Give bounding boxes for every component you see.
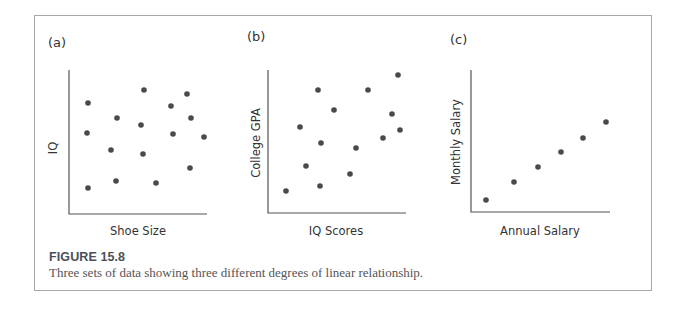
data-point <box>389 111 395 117</box>
data-point <box>188 115 194 121</box>
data-point <box>347 171 353 177</box>
data-point <box>114 115 120 121</box>
data-point <box>397 127 403 133</box>
panel-a: (a) Shoe Size IQ <box>46 35 207 238</box>
data-point <box>168 103 174 109</box>
panel-c-points <box>483 119 609 203</box>
data-point <box>483 197 489 203</box>
data-point <box>113 178 119 184</box>
panel-a-x-label: Shoe Size <box>110 224 166 238</box>
data-point <box>138 122 144 128</box>
data-point <box>283 188 289 194</box>
data-point <box>141 87 147 93</box>
panel-b-label: (b) <box>247 29 265 44</box>
data-point <box>353 145 359 151</box>
panel-a-y-label: IQ <box>46 142 60 154</box>
data-point <box>170 131 176 137</box>
data-point <box>535 164 541 170</box>
panel-a-label: (a) <box>48 35 66 50</box>
data-point <box>187 165 193 171</box>
data-point <box>315 87 321 93</box>
panel-b: (b) IQ Scores College GPA <box>247 29 406 238</box>
panel-b-points <box>283 72 403 194</box>
data-point <box>153 180 159 186</box>
panel-c-axes <box>471 70 610 212</box>
data-point <box>317 183 323 189</box>
data-point <box>603 119 609 125</box>
data-point <box>184 91 190 97</box>
data-point <box>84 130 90 136</box>
data-point <box>108 147 114 153</box>
data-point <box>331 107 337 113</box>
data-point <box>303 163 309 169</box>
panel-b-x-label: IQ Scores <box>309 224 363 238</box>
data-point <box>297 124 303 130</box>
data-point <box>511 179 517 185</box>
data-point <box>380 135 386 141</box>
figure-title: FIGURE 15.8 <box>49 250 125 264</box>
panel-c-y-label: Monthly Salary <box>449 99 463 185</box>
panel-b-y-label: College GPA <box>249 108 263 178</box>
data-point <box>580 135 586 141</box>
panel-a-points <box>84 87 207 191</box>
data-point <box>558 149 564 155</box>
data-point <box>85 185 91 191</box>
data-point <box>201 134 207 140</box>
figure-caption: Three sets of data showing three differe… <box>49 265 423 281</box>
data-point <box>318 140 324 146</box>
data-point <box>395 72 401 78</box>
panel-c: (c) Annual Salary Monthly Salary <box>449 32 610 238</box>
data-point <box>85 100 91 106</box>
data-point <box>365 87 371 93</box>
data-point <box>140 151 146 157</box>
panel-c-label: (c) <box>450 32 467 47</box>
panel-c-x-label: Annual Salary <box>500 224 580 238</box>
